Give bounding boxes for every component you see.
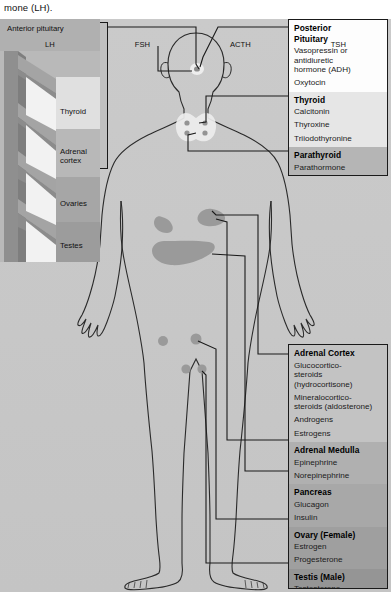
hormone-oxytocin: Oxytocin	[294, 78, 382, 88]
body-outline-svg	[76, 19, 316, 592]
caption-fragment: mone (LH).	[4, 2, 53, 13]
section-heading: Thyroid	[294, 95, 382, 106]
hormone-estrogen: Estrogen	[294, 542, 382, 552]
hormone-thyroxine: Thyroxine	[294, 120, 382, 130]
inset-schematic-svg	[0, 19, 100, 262]
gland-marker-thyroid	[176, 113, 216, 141]
hormone-glucocorticosteroids: Glucocortico- steroids (hydrocortisone)	[294, 361, 382, 390]
section-pancreas: Pancreas Glucagon Insulin	[289, 484, 387, 526]
hormone-norepinephrine: Norepinephrine	[294, 471, 382, 481]
hormone-epinephrine: Epinephrine	[294, 458, 382, 468]
gland-marker-ovary-right	[191, 334, 202, 345]
human-body-figure	[76, 19, 316, 592]
inset-hormone-lh: LH	[45, 40, 55, 49]
hormone-androgens: Androgens	[294, 415, 382, 425]
section-heading: Adrenal Medulla	[294, 445, 382, 456]
hormone-mineralocorticosteroids: Mineralocortico- steroids (aldosterone)	[294, 393, 382, 412]
gland-marker-pancreas	[152, 241, 215, 265]
figure-page: mone (LH).	[0, 0, 391, 592]
gland-marker-adrenal-left	[154, 216, 173, 233]
hormone-insulin: Insulin	[294, 513, 382, 523]
figure-plate: Anterior Pituitary Thyroid-stimulating h…	[0, 19, 391, 592]
hormone-glucagon: Glucagon	[294, 500, 382, 510]
panel-lower-right: Adrenal Cortex Glucocortico- steroids (h…	[288, 344, 388, 589]
section-adrenal-medulla: Adrenal Medulla Epinephrine Norepinephri…	[289, 442, 387, 484]
inset-hormone-row: LH FSH ACTH TSH	[0, 40, 102, 49]
section-posterior-pituitary: Posterior Pituitary Vasopressin or antid…	[289, 20, 387, 92]
section-heading: Adrenal Cortex	[294, 348, 382, 359]
hormone-estrogens: Estrogens	[294, 429, 382, 439]
inset-title: Anterior pituitary	[7, 24, 64, 33]
inset-target-adrenal-cortex: Adrenal cortex	[60, 147, 87, 165]
gland-marker-testis-left	[181, 364, 190, 373]
hormone-triiodothyronine: Triiodothyronine	[294, 134, 382, 144]
section-parathyroid: Parathyroid Parathormone	[289, 147, 387, 176]
hormone-adh: Vasopressin or antidiuretic hormone (ADH…	[294, 46, 382, 75]
section-heading: Ovary (Female)	[294, 530, 382, 541]
inset-target-thyroid: Thyroid	[60, 107, 86, 116]
hormone-progesterone: Progesterone	[294, 555, 382, 565]
gland-marker-ovary-left	[158, 336, 168, 346]
gland-marker-testis-right	[197, 364, 206, 373]
section-adrenal-cortex: Adrenal Cortex Glucocortico- steroids (h…	[289, 345, 387, 442]
gland-marker-adrenal-right	[197, 209, 225, 226]
inset-target-ovaries: Ovaries	[60, 199, 87, 208]
section-testis: Testis (Male) Testosterone	[289, 569, 387, 589]
section-heading: Testis (Male)	[294, 572, 382, 583]
hormone-parathormone: Parathormone	[294, 163, 382, 173]
inset-feedback-diagram: Anterior pituitary LH FSH ACTH TSH Thyro…	[0, 19, 102, 264]
section-heading: Pancreas	[294, 487, 382, 498]
hormone-testosterone: Testosterone	[294, 584, 382, 589]
hormone-calcitonin: Calcitonin	[294, 107, 382, 117]
section-thyroid: Thyroid Calcitonin Thyroxine Triiodothyr…	[289, 92, 387, 147]
section-ovary: Ovary (Female) Estrogen Progesterone	[289, 527, 387, 569]
inset-target-testes: Testes	[60, 241, 83, 250]
section-heading: Parathyroid	[294, 150, 382, 161]
